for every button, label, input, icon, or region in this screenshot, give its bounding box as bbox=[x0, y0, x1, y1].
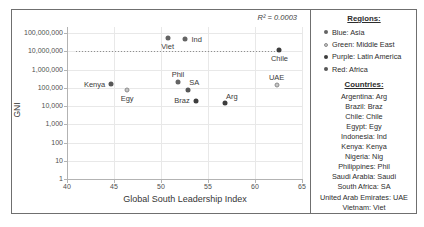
y-tick-label: 1,000 bbox=[20, 120, 63, 127]
gridline-horizontal bbox=[67, 33, 302, 34]
point-label-phil: Phil bbox=[172, 70, 185, 79]
x-tick-label: 60 bbox=[245, 183, 265, 190]
point-kenya bbox=[109, 82, 114, 87]
gridline-horizontal bbox=[67, 124, 302, 125]
point-braz bbox=[193, 98, 198, 103]
gridline-vertical bbox=[208, 27, 209, 179]
y-tick-label: 100,000 bbox=[20, 84, 63, 91]
region-item-label: Purple: Latin America bbox=[332, 52, 401, 61]
countries-title: Countries: bbox=[311, 80, 417, 89]
y-tick-label: 100 bbox=[20, 139, 63, 146]
region-item: Green: Middle East bbox=[311, 38, 417, 50]
country-item: Nigeria: Nig bbox=[311, 152, 417, 162]
point-chile bbox=[277, 48, 282, 53]
point-egy bbox=[125, 88, 130, 93]
region-item: Purple: Latin America bbox=[311, 51, 417, 63]
country-item: Philippines: Phil bbox=[311, 162, 417, 172]
region-item-label: Red: Africa bbox=[332, 65, 368, 74]
gridline-horizontal bbox=[67, 161, 302, 162]
y-tick-mark bbox=[64, 88, 67, 89]
x-axis-title: Global South Leadership Index bbox=[123, 194, 247, 204]
y-axis-line bbox=[67, 27, 68, 180]
region-item: Red: Africa bbox=[311, 63, 417, 75]
point-label-viet: Viet bbox=[161, 42, 174, 51]
region-bullet-icon bbox=[324, 55, 328, 59]
point-label-ind: Ind bbox=[191, 35, 201, 44]
r-squared-annotation: R² = 0.0003 bbox=[258, 13, 297, 22]
x-tick-label: 45 bbox=[104, 183, 124, 190]
point-label-arg: Arg bbox=[226, 92, 238, 101]
country-item: Kenya: Kenya bbox=[311, 142, 417, 152]
y-tick-mark bbox=[64, 70, 67, 71]
y-tick-mark bbox=[64, 143, 67, 144]
y-tick-label: 10,000 bbox=[20, 102, 63, 109]
gridline-vertical bbox=[255, 27, 256, 179]
y-tick-mark bbox=[64, 179, 67, 180]
point-uae bbox=[274, 83, 279, 88]
y-tick-mark bbox=[64, 106, 67, 107]
country-item: Chile: Chile bbox=[311, 112, 417, 122]
region-bullet-icon bbox=[324, 43, 328, 47]
region-item-label: Blue: Asia bbox=[332, 28, 364, 37]
trendline bbox=[76, 51, 279, 52]
countries-list: Argentina: ArgBrazil: BrazChile: ChileEg… bbox=[311, 92, 417, 213]
country-item: Indonesia: Ind bbox=[311, 132, 417, 142]
country-item: Brazil: Braz bbox=[311, 102, 417, 112]
y-tick-label: 10,000,000 bbox=[20, 47, 63, 54]
point-arg bbox=[222, 101, 227, 106]
point-viet bbox=[165, 35, 170, 40]
country-item: United Arab Emirates: UAE bbox=[311, 193, 417, 203]
country-item: Vietnam: Viet bbox=[311, 203, 417, 213]
y-tick-mark bbox=[64, 124, 67, 125]
point-label-egy: Egy bbox=[121, 94, 134, 103]
y-tick-mark bbox=[64, 51, 67, 52]
y-tick-mark bbox=[64, 161, 67, 162]
point-label-braz: Braz bbox=[174, 96, 189, 105]
y-tick-label: 100,000,000 bbox=[20, 29, 63, 36]
point-phil bbox=[175, 80, 180, 85]
country-item: Saudi Arabia: Saudi bbox=[311, 172, 417, 182]
regions-list: Blue: AsiaGreen: Middle EastPurple: Lati… bbox=[311, 26, 417, 76]
gridline-vertical bbox=[114, 27, 115, 179]
x-axis-line bbox=[67, 179, 303, 180]
point-label-sa: SA bbox=[189, 78, 199, 87]
point-sa bbox=[186, 87, 191, 92]
legend-box: Regions: Blue: AsiaGreen: Middle EastPur… bbox=[311, 9, 417, 213]
gridline-horizontal bbox=[67, 106, 302, 107]
region-bullet-icon bbox=[324, 30, 328, 34]
point-ind bbox=[183, 37, 188, 42]
region-bullet-icon bbox=[324, 67, 328, 71]
country-item: South Africa: SA bbox=[311, 182, 417, 192]
y-tick-mark bbox=[64, 33, 67, 34]
region-item-label: Green: Middle East bbox=[332, 40, 394, 49]
country-item: Egypt: Egy bbox=[311, 122, 417, 132]
point-label-kenya: Kenya bbox=[84, 80, 105, 89]
x-tick-label: 55 bbox=[198, 183, 218, 190]
x-tick-label: 40 bbox=[57, 183, 77, 190]
y-tick-label: 10 bbox=[20, 157, 63, 164]
gridline-vertical bbox=[302, 27, 303, 179]
country-item: Argentina: Arg bbox=[311, 92, 417, 102]
chart-screenshot: R² = 0.0003 Global South Leadership Inde… bbox=[0, 0, 424, 227]
point-label-uae: UAE bbox=[269, 73, 284, 82]
gridline-horizontal bbox=[67, 143, 302, 144]
y-tick-label: 1 bbox=[20, 175, 63, 182]
x-tick-label: 65 bbox=[292, 183, 312, 190]
x-tick-label: 50 bbox=[151, 183, 171, 190]
y-tick-label: 1,000,000 bbox=[20, 66, 63, 73]
point-label-chile: Chile bbox=[271, 54, 288, 63]
region-item: Blue: Asia bbox=[311, 26, 417, 38]
regions-title: Regions: bbox=[311, 14, 417, 23]
